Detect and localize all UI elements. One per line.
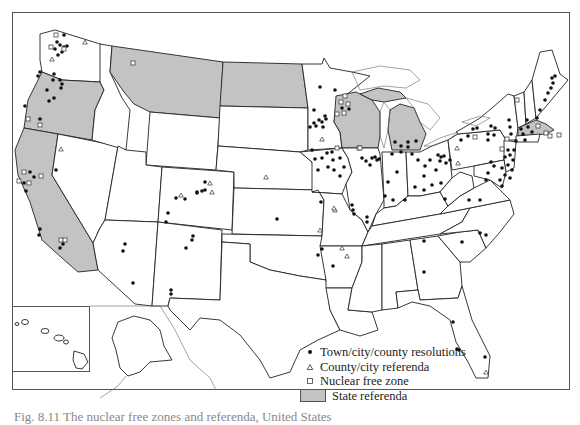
legend-label: State referenda <box>332 389 407 404</box>
state-wyoming <box>146 112 220 170</box>
state-new-mexico <box>152 222 222 306</box>
alaska-shape <box>112 316 172 376</box>
legend-label: Town/city/county resolutions <box>320 345 466 360</box>
state-maine <box>532 50 568 118</box>
state-north-dakota <box>220 62 308 108</box>
map-legend: Town/city/county resolutions County/city… <box>300 345 466 403</box>
hawaii-inset-frame <box>12 306 90 372</box>
legend-item-nfz: Nuclear free zone <box>300 374 466 389</box>
legend-label: Nuclear free zone <box>320 374 409 389</box>
lake-michigan <box>380 102 390 148</box>
open-square-icon <box>300 377 320 385</box>
figure-caption: Fig. 8.11 The nuclear free zones and ref… <box>14 409 332 425</box>
open-triangle-icon <box>300 363 320 371</box>
state-south-dakota <box>218 106 308 152</box>
states-layer <box>15 30 568 378</box>
state-arizona <box>93 220 158 306</box>
aleutian-tail <box>100 376 126 398</box>
legend-item-state-referenda: State referenda <box>300 389 466 404</box>
legend-item-resolutions: Town/city/county resolutions <box>300 345 466 360</box>
state-colorado <box>158 167 234 230</box>
state-washington <box>40 30 105 82</box>
state-kansas <box>232 188 324 236</box>
legend-item-referenda: County/city referenda <box>300 360 466 375</box>
filled-circle-icon <box>300 348 320 356</box>
gray-swatch-icon <box>300 389 326 402</box>
legend-label: County/city referenda <box>320 360 429 375</box>
